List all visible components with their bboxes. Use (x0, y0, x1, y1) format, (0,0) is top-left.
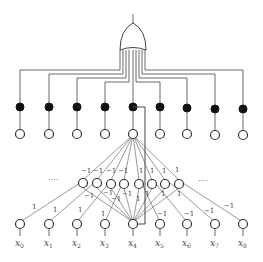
svg-text:x7: x7 (210, 238, 219, 249)
input-node-x4 (129, 220, 138, 237)
open-node (239, 131, 248, 140)
svg-text:1: 1 (78, 206, 82, 214)
svg-text:−1: −1 (93, 167, 103, 175)
gate-wires (20, 50, 243, 109)
svg-text:1: 1 (136, 195, 140, 203)
vertical-links (20, 111, 243, 131)
svg-text:1: 1 (150, 167, 154, 175)
input-node-row (16, 220, 248, 237)
open-node (183, 130, 192, 139)
diagram-canvas: ···· ···· −1 −1 −1 −1 1 1 1 1 −1 −1 −1 −… (0, 0, 263, 262)
svg-text:x0: x0 (15, 238, 24, 249)
filled-node (156, 103, 164, 111)
filled-node (73, 103, 81, 111)
svg-text:−1: −1 (81, 167, 91, 175)
open-node (73, 130, 82, 139)
upper-open-node-row (16, 130, 248, 140)
svg-text:1: 1 (162, 167, 166, 175)
input-node-x5 (156, 220, 165, 237)
input-node-x0 (16, 220, 25, 237)
network-diagram: ···· ···· −1 −1 −1 −1 1 1 1 1 −1 −1 −1 −… (0, 0, 263, 262)
open-node (129, 130, 138, 139)
svg-text:−1: −1 (122, 190, 132, 198)
svg-text:1: 1 (139, 167, 143, 175)
svg-text:1: 1 (175, 166, 179, 174)
svg-text:−1: −1 (111, 195, 121, 203)
middle-node (120, 180, 129, 189)
or-gate-icon (120, 14, 146, 50)
bypass-wire (133, 107, 145, 224)
open-node (16, 130, 25, 139)
open-node (211, 131, 220, 140)
svg-text:−1: −1 (157, 210, 167, 218)
filled-node (16, 103, 24, 111)
input-node-x7 (211, 220, 220, 237)
open-node (101, 130, 110, 139)
input-node-x2 (73, 220, 82, 237)
svg-text:x2: x2 (72, 238, 81, 249)
middle-top-weights: −1 −1 −1 −1 1 1 1 1 (81, 166, 179, 175)
filled-node-row (16, 103, 247, 113)
middle-node (148, 180, 157, 189)
input-labels: x0 x1 x2 x3 x4 x5 x6 x7 x8 (15, 238, 247, 249)
svg-text:−1: −1 (204, 207, 214, 215)
input-node-x3 (101, 220, 110, 237)
svg-text:x5: x5 (155, 238, 164, 249)
open-node (45, 130, 54, 139)
svg-text:−1: −1 (118, 167, 128, 175)
svg-text:1: 1 (177, 190, 181, 198)
svg-text:−1: −1 (106, 167, 116, 175)
middle-node (79, 179, 88, 188)
svg-text:−1: −1 (184, 210, 194, 218)
svg-text:x6: x6 (182, 238, 191, 249)
middle-to-input-edges (20, 183, 243, 222)
ellipsis-left: ···· (48, 176, 58, 185)
svg-text:x8: x8 (238, 238, 247, 249)
middle-node (107, 180, 116, 189)
middle-node (135, 180, 144, 189)
filled-node (183, 104, 191, 112)
svg-text:x1: x1 (44, 238, 53, 249)
svg-text:x3: x3 (100, 238, 109, 249)
filled-node (101, 103, 109, 111)
middle-layer: ···· ···· (48, 176, 208, 189)
open-node (156, 130, 165, 139)
svg-text:1: 1 (101, 210, 105, 218)
input-node-x6 (183, 220, 192, 237)
middle-inner-weights: −1 −1 −1 −1 1 1 1 1 (84, 189, 181, 203)
ellipsis-right: ···· (198, 177, 208, 186)
svg-text:1: 1 (145, 190, 149, 198)
middle-node (175, 180, 184, 189)
svg-text:1: 1 (32, 203, 36, 211)
input-node-x1 (45, 220, 54, 237)
filled-node (211, 105, 219, 113)
middle-node (93, 179, 102, 188)
svg-text:x4: x4 (128, 238, 137, 249)
middle-node (161, 180, 170, 189)
svg-text:−1: −1 (224, 202, 234, 210)
input-weights: 1 1 1 1 −1 −1 −1 −1 (32, 202, 234, 218)
svg-text:1: 1 (161, 190, 165, 198)
svg-text:1: 1 (53, 206, 57, 214)
filled-node (45, 103, 53, 111)
input-node-x8 (239, 220, 248, 237)
svg-text:−1: −1 (84, 192, 94, 200)
filled-node (239, 105, 247, 113)
